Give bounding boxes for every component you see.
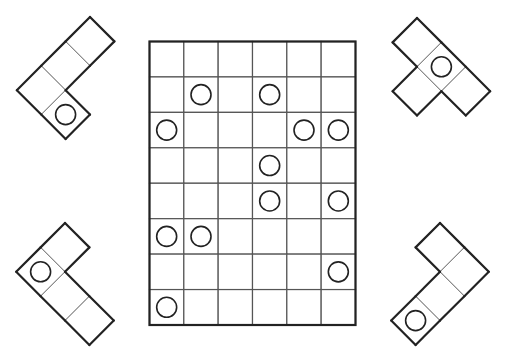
piece-bottom-left[interactable]	[16, 223, 114, 345]
board-cell[interactable]	[321, 42, 355, 77]
board-cell[interactable]	[150, 219, 184, 254]
board-cell[interactable]	[321, 112, 355, 147]
board-cell[interactable]	[150, 112, 184, 147]
board-cell[interactable]	[150, 254, 184, 289]
puzzle-board	[150, 42, 356, 326]
board-cell[interactable]	[184, 77, 218, 112]
puzzle-canvas	[0, 0, 507, 351]
board-cell[interactable]	[253, 219, 287, 254]
board-cell[interactable]	[287, 112, 321, 147]
board-cell[interactable]	[184, 112, 218, 147]
board-cell[interactable]	[184, 254, 218, 289]
board-cell[interactable]	[253, 77, 287, 112]
board-cell[interactable]	[150, 42, 184, 77]
board-cell[interactable]	[218, 219, 252, 254]
board-cell[interactable]	[287, 42, 321, 77]
board-cell[interactable]	[184, 290, 218, 325]
board-cell[interactable]	[150, 183, 184, 218]
board-cell[interactable]	[150, 77, 184, 112]
board-cell[interactable]	[321, 183, 355, 218]
board-cell[interactable]	[287, 290, 321, 325]
board-cell[interactable]	[218, 77, 252, 112]
board-cell[interactable]	[253, 290, 287, 325]
board-cell[interactable]	[287, 77, 321, 112]
piece-top-left[interactable]	[17, 17, 115, 139]
board-cell[interactable]	[184, 183, 218, 218]
board-cell[interactable]	[321, 290, 355, 325]
board-cell[interactable]	[321, 148, 355, 183]
board-cell[interactable]	[218, 112, 252, 147]
board-cell[interactable]	[287, 148, 321, 183]
piece-bottom-right[interactable]	[391, 223, 489, 345]
board-cell[interactable]	[218, 290, 252, 325]
board-cell[interactable]	[184, 42, 218, 77]
board-cell[interactable]	[184, 148, 218, 183]
board-cell[interactable]	[253, 183, 287, 218]
piece-top-right[interactable]	[393, 18, 491, 116]
board-cell[interactable]	[287, 219, 321, 254]
board-cell[interactable]	[287, 183, 321, 218]
board-cell[interactable]	[218, 148, 252, 183]
board-cell[interactable]	[184, 219, 218, 254]
board-cell[interactable]	[321, 77, 355, 112]
board-cell[interactable]	[287, 254, 321, 289]
board-cell[interactable]	[218, 183, 252, 218]
board-cell[interactable]	[150, 148, 184, 183]
board-cell[interactable]	[218, 254, 252, 289]
board-cell[interactable]	[321, 254, 355, 289]
board-cell[interactable]	[253, 254, 287, 289]
board-cell[interactable]	[321, 219, 355, 254]
board-cell[interactable]	[150, 290, 184, 325]
board-cell[interactable]	[218, 42, 252, 77]
board-cell[interactable]	[253, 112, 287, 147]
board-cell[interactable]	[253, 42, 287, 77]
board-cell[interactable]	[253, 148, 287, 183]
